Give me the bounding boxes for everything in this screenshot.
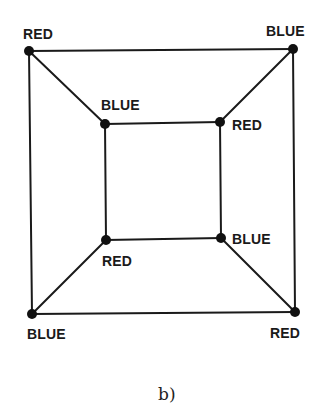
edge-inner-left xyxy=(105,124,106,240)
node-outer-tl xyxy=(24,46,34,56)
edge-diag-br xyxy=(221,238,295,312)
edge-outer-right xyxy=(293,49,295,312)
label-inner-tl: BLUE xyxy=(101,98,140,112)
node-outer-br xyxy=(290,307,300,317)
node-inner-br xyxy=(216,233,226,243)
label-outer-tl: RED xyxy=(23,27,53,41)
label-outer-tr: BLUE xyxy=(266,24,305,38)
edge-diag-bl xyxy=(32,240,106,314)
node-inner-tl xyxy=(100,119,110,129)
node-inner-bl xyxy=(101,235,111,245)
graph-diagram xyxy=(0,0,328,412)
edge-outer-top xyxy=(29,49,293,51)
node-outer-bl xyxy=(27,309,37,319)
node-inner-tr xyxy=(215,117,225,127)
edge-inner-bottom xyxy=(106,238,221,240)
edge-inner-right xyxy=(220,122,221,238)
label-inner-br: BLUE xyxy=(232,232,271,246)
edge-diag-tl xyxy=(29,51,105,124)
figure-caption: b) xyxy=(158,386,176,403)
edge-diag-tr xyxy=(220,49,293,122)
edge-inner-top xyxy=(105,122,220,124)
edge-outer-bottom xyxy=(32,312,295,314)
label-outer-bl: BLUE xyxy=(27,327,66,341)
label-outer-br: RED xyxy=(270,326,300,340)
edge-outer-left xyxy=(29,51,32,314)
label-inner-tr: RED xyxy=(232,118,262,132)
node-outer-tr xyxy=(288,44,298,54)
label-inner-bl: RED xyxy=(102,254,132,268)
